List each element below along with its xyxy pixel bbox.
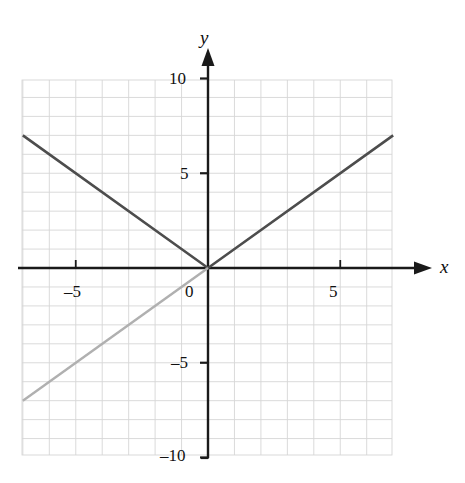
- x-tick-label-5: 5: [329, 283, 338, 300]
- y-tick-label-5: 5: [180, 165, 189, 182]
- y-tick-label-10: 10: [169, 70, 186, 87]
- coordinate-plane-canvas: [0, 0, 465, 483]
- y-tick-label-neg10: –10: [160, 447, 186, 464]
- y-axis-label: y: [200, 28, 208, 47]
- y-tick-label-neg5: –5: [171, 354, 188, 371]
- x-axis-label: x: [440, 257, 448, 276]
- x-tick-label-neg5: –5: [64, 283, 81, 300]
- axis-lines: [18, 48, 432, 458]
- graph-figure: y x 0 10 5 –5 –10 –5 5: [0, 0, 465, 483]
- origin-tick-label: 0: [185, 283, 194, 300]
